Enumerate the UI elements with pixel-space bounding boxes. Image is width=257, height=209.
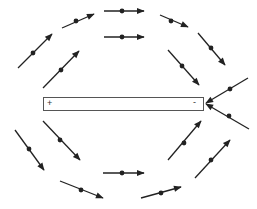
field-lines-canvas xyxy=(0,0,257,209)
arrow-dot xyxy=(209,46,214,51)
negative-pole-label: - xyxy=(193,98,196,107)
arrow-line xyxy=(160,15,188,27)
field-arrow-cross-lower xyxy=(206,104,249,129)
positive-pole-label: + xyxy=(47,99,52,108)
field-diagram: + - xyxy=(0,0,257,209)
arrow-dot xyxy=(74,19,79,24)
arrow-dot xyxy=(58,138,63,143)
field-arrow-top-right xyxy=(160,15,188,27)
arrow-line xyxy=(18,34,52,68)
field-arrow-bottom-right xyxy=(141,187,181,198)
arrow-dot xyxy=(228,87,233,92)
arrow-line xyxy=(168,121,201,160)
field-arrow-bottom-left xyxy=(60,181,103,198)
arrow-dot xyxy=(120,171,125,176)
arrow-dot xyxy=(27,147,32,152)
arrow-dot xyxy=(169,19,174,24)
field-arrow-top-center-inner xyxy=(104,35,144,40)
arrow-dot xyxy=(227,114,232,119)
arrow-line xyxy=(206,78,248,103)
arrow-dot xyxy=(120,35,125,40)
field-arrow-lower-right-inner xyxy=(168,121,201,160)
arrow-dot xyxy=(209,158,214,163)
bar-magnet xyxy=(44,98,204,111)
arrow-dot xyxy=(182,141,187,146)
field-arrow-upper-left-outer xyxy=(18,34,52,68)
field-arrow-lower-left-outer xyxy=(15,130,44,170)
field-arrow-top-left xyxy=(62,14,94,28)
field-arrow-top-center-outer xyxy=(104,9,144,14)
field-arrow-lower-left-inner xyxy=(43,121,80,160)
arrow-dot xyxy=(79,188,84,193)
field-arrow-upper-right-inner xyxy=(168,50,199,85)
field-arrow-upper-left-inner xyxy=(43,51,79,88)
arrow-dot xyxy=(120,9,125,14)
field-arrow-cross-upper xyxy=(206,78,248,103)
arrow-dot xyxy=(31,51,36,56)
field-arrow-bottom-center xyxy=(103,171,144,176)
field-arrow-lower-right-outer xyxy=(195,140,230,178)
arrow-dot xyxy=(180,64,185,69)
arrow-dot xyxy=(159,191,164,196)
field-arrow-upper-right-outer xyxy=(198,33,225,65)
arrow-dot xyxy=(59,68,64,73)
